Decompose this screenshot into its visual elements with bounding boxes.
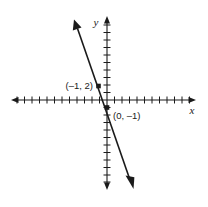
x-axis-label: x <box>189 104 195 116</box>
point-marker-0-neg1 <box>105 105 110 110</box>
vertical-axis <box>104 16 111 190</box>
line-segment <box>78 29 131 181</box>
y-axis-down-arrowhead <box>104 183 110 191</box>
coordinate-plane-figure: y x (–1, 2) (0, –1) <box>0 0 208 207</box>
line-upper-left-arrowhead <box>73 20 82 31</box>
point-label-0-neg1: (0, –1) <box>113 110 140 121</box>
y-axis-up-arrowhead <box>104 16 110 24</box>
y-axis-label: y <box>93 16 99 28</box>
point-label-neg1-2: (–1, 2) <box>66 80 93 91</box>
point-marker-neg1-2 <box>96 84 101 89</box>
line-lower-right-arrowhead <box>126 176 135 190</box>
graph-canvas: y x (–1, 2) (0, –1) <box>0 0 208 207</box>
plotted-line <box>73 20 135 190</box>
